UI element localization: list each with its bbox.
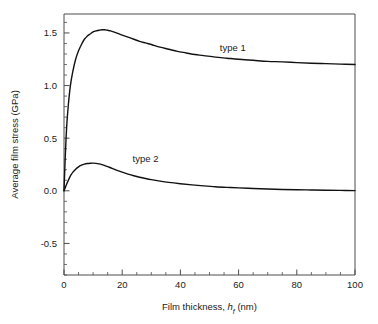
- y-tick-label: 0.0: [44, 185, 57, 196]
- plot-border: [64, 14, 355, 275]
- line-chart: 020406080100 -0.50.00.51.01.5 type 1type…: [0, 0, 378, 324]
- plot-frame: [64, 14, 355, 275]
- y-axis-title: Average film stress (GPa): [9, 90, 20, 199]
- y-axis-tick-labels: -0.50.00.51.01.5: [41, 27, 57, 248]
- x-tick-label: 20: [117, 279, 128, 290]
- series-label-type-2: type 2: [133, 153, 159, 164]
- x-tick-label: 40: [175, 279, 186, 290]
- y-tick-label: -0.5: [41, 238, 57, 249]
- x-tick-label: 60: [233, 279, 244, 290]
- x-axis-title: Film thickness, hf (nm): [162, 301, 257, 315]
- series-label-type-1: type 1: [220, 42, 246, 53]
- data-series-curves: [64, 30, 355, 191]
- y-tick-label: 1.5: [44, 27, 57, 38]
- y-tick-label: 0.5: [44, 133, 57, 144]
- series-annotations: type 1type 2: [133, 42, 246, 165]
- x-tick-label: 100: [347, 279, 363, 290]
- curve-type-2: [64, 163, 355, 191]
- x-tick-label: 80: [292, 279, 303, 290]
- chart-figure: 020406080100 -0.50.00.51.01.5 type 1type…: [0, 0, 378, 324]
- axis-ticks: [64, 22, 355, 275]
- y-tick-label: 1.0: [44, 80, 57, 91]
- x-axis-tick-labels: 020406080100: [61, 279, 363, 290]
- x-tick-label: 0: [61, 279, 66, 290]
- axis-titles: Film thickness, hf (nm)Average film stre…: [9, 90, 257, 314]
